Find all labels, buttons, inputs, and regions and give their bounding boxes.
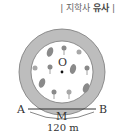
flower-icon — [33, 66, 38, 71]
flower-icon — [77, 50, 82, 55]
label-a: A — [17, 104, 25, 115]
flower-icon — [52, 90, 57, 95]
label-o: O — [58, 57, 67, 68]
flower-icon — [85, 66, 90, 71]
center-point — [61, 71, 64, 74]
flower-icon — [48, 65, 53, 70]
flower-icon — [62, 46, 67, 51]
flower-icon — [67, 90, 72, 95]
label-m: M — [56, 111, 67, 122]
chord-length-label: 120 m — [47, 123, 79, 133]
label-b: B — [99, 104, 107, 115]
